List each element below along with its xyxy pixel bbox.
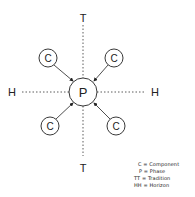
tradition-label-top: T (80, 12, 87, 24)
phase-label: P (79, 85, 88, 100)
tradition-label-bottom: T (80, 162, 87, 174)
legend: C = Component P = Phase TT = Tradition H… (134, 161, 179, 189)
component-label: C (46, 121, 53, 132)
horizon-label-left: H (8, 86, 16, 98)
component-label: C (110, 53, 117, 64)
legend-item-horizon: HH = Horizon (134, 182, 179, 189)
arrow-top-right (94, 65, 108, 81)
legend-item-component: C = Component (134, 161, 179, 168)
arrow-top-left (54, 65, 73, 81)
legend-item-phase: P = Phase (134, 168, 179, 175)
legend-item-tradition: TT = Tradition (134, 175, 179, 182)
horizon-label-right: H (151, 86, 159, 98)
arrow-bottom-left (56, 103, 73, 119)
component-label: C (112, 121, 119, 132)
arrow-bottom-right (94, 103, 110, 119)
component-label: C (44, 53, 51, 64)
